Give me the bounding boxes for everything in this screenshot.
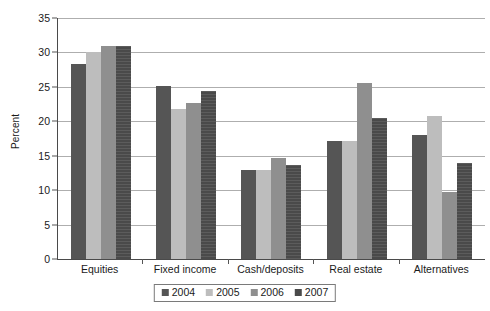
bar — [427, 116, 442, 259]
bar — [86, 52, 101, 259]
bar — [342, 141, 357, 259]
y-axis-tick-label: 30 — [38, 46, 50, 58]
bar — [457, 163, 472, 259]
legend-swatch-icon — [162, 289, 169, 296]
bar-group — [400, 18, 485, 259]
x-axis-tick-labels: EquitiesFixed incomeCash/depositsReal es… — [57, 263, 484, 279]
legend-item: 2006 — [251, 287, 284, 298]
legend-label: 2006 — [261, 287, 284, 298]
y-axis-tick-label: 5 — [44, 219, 50, 231]
bar — [327, 141, 342, 259]
x-axis-tick-label: Cash/deposits — [237, 263, 304, 275]
x-axis-tick-label: Equities — [81, 263, 118, 275]
y-axis-tick-label: 20 — [38, 115, 50, 127]
bar — [271, 158, 286, 259]
bar — [116, 46, 131, 259]
bar — [241, 170, 256, 259]
legend-label: 2007 — [305, 287, 328, 298]
bar-group — [314, 18, 399, 259]
legend-item: 2007 — [295, 287, 328, 298]
y-axis-tick-label: 15 — [38, 150, 50, 162]
legend-item: 2004 — [162, 287, 195, 298]
bar — [412, 135, 427, 259]
x-axis-tick-label: Alternatives — [414, 263, 469, 275]
bar — [156, 86, 171, 259]
chart-legend: 2004200520062007 — [154, 284, 336, 302]
legend-label: 2005 — [216, 287, 239, 298]
y-axis-tick-label: 25 — [38, 81, 50, 93]
bars-layer — [58, 18, 485, 259]
legend-item: 2005 — [206, 287, 239, 298]
y-axis-tick-label: 0 — [44, 253, 50, 265]
plot-area — [57, 18, 485, 260]
y-axis-tick-label: 35 — [38, 12, 50, 24]
bar — [372, 118, 387, 259]
bar-group — [229, 18, 314, 259]
bar — [201, 91, 216, 259]
legend-label: 2004 — [172, 287, 195, 298]
y-axis-title: Percent — [6, 0, 26, 262]
bar-group — [143, 18, 228, 259]
bar — [71, 64, 86, 259]
bar — [286, 165, 301, 259]
bar — [171, 109, 186, 259]
legend-swatch-icon — [206, 289, 213, 296]
bar — [101, 46, 116, 259]
legend-swatch-icon — [295, 289, 302, 296]
x-axis-tick-label: Fixed income — [154, 263, 216, 275]
legend-swatch-icon — [251, 289, 258, 296]
bar — [186, 103, 201, 259]
bar — [357, 83, 372, 259]
x-axis-tick-label: Real estate — [329, 263, 382, 275]
y-axis-tick-label: 10 — [38, 184, 50, 196]
y-axis-title-label: Percent — [11, 113, 22, 148]
bar-group — [58, 18, 143, 259]
y-axis-tick-labels: 05101520253035 — [26, 0, 50, 262]
bar — [256, 170, 271, 259]
bar — [442, 192, 457, 259]
bar-chart: Percent 05101520253035 EquitiesFixed inc… — [0, 0, 490, 311]
